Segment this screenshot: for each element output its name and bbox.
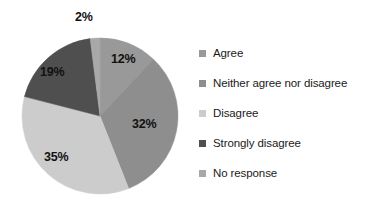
legend-item-neither-agree-nor-disagree[interactable]: Neither agree nor disagree: [196, 68, 364, 98]
legend-swatch-icon: [199, 170, 206, 177]
pie-graphic: [0, 0, 200, 205]
legend-item-label: Agree: [213, 47, 243, 60]
legend-swatch-icon: [199, 50, 206, 57]
legend-item-label: Strongly disagree: [213, 137, 301, 150]
legend-item-label: No response: [213, 167, 277, 180]
legend-item-strongly-disagree[interactable]: Strongly disagree: [196, 128, 364, 158]
legend-item-agree[interactable]: Agree: [196, 38, 364, 68]
legend-swatch-icon: [199, 80, 206, 87]
legend-item-label: Neither agree nor disagree: [213, 77, 347, 90]
slice-label-no-response: 2%: [75, 11, 93, 24]
slice-label-strongly-disagree: 19%: [40, 66, 64, 79]
legend-item-no-response[interactable]: No response: [196, 158, 364, 188]
pie-slices: [22, 38, 178, 194]
legend-item-label: Disagree: [213, 107, 258, 120]
pie-chart: 12% 32% 35% 19% 2% AgreeNeither agree no…: [0, 0, 365, 205]
legend-swatch-icon: [199, 140, 206, 147]
chart-legend: AgreeNeither agree nor disagreeDisagreeS…: [196, 38, 364, 188]
legend-swatch-icon: [199, 110, 206, 117]
slice-label-neither-agree-nor-disagree: 32%: [132, 118, 156, 131]
slice-label-disagree: 35%: [44, 151, 68, 164]
legend-item-disagree[interactable]: Disagree: [196, 98, 364, 128]
slice-label-agree: 12%: [111, 53, 135, 66]
